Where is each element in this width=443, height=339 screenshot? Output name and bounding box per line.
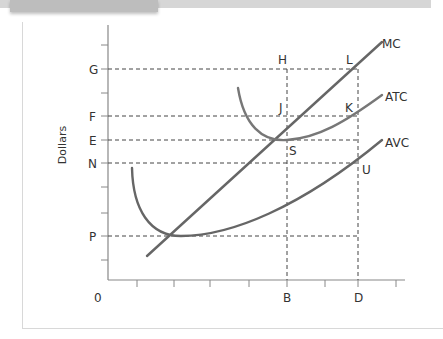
y-label-P: P	[89, 230, 96, 244]
y-label-G: G	[89, 63, 98, 77]
y-label-N: N	[88, 157, 97, 171]
x-ticks	[137, 280, 396, 287]
origin-label: 0	[94, 291, 102, 305]
x-label-D: D	[354, 291, 363, 305]
point-label-L: L	[346, 53, 353, 67]
reference-lines	[108, 69, 358, 280]
curves	[132, 42, 382, 256]
y-axis-title: Dollars	[56, 126, 69, 165]
curve-label-MC: MC	[382, 37, 401, 51]
point-label-J: J	[278, 101, 283, 115]
point-label-H: H	[278, 53, 287, 67]
point-label-K: K	[345, 101, 354, 115]
atc-curve	[238, 88, 382, 140]
mc-curve	[147, 42, 382, 256]
y-label-E: E	[89, 134, 97, 148]
y-label-F: F	[89, 110, 96, 124]
axes	[108, 25, 405, 280]
x-label-B: B	[283, 291, 291, 305]
point-label-U: U	[362, 163, 371, 177]
point-label-S: S	[289, 144, 297, 158]
curve-label-AVC: AVC	[385, 136, 409, 150]
curve-label-ATC: ATC	[385, 90, 407, 104]
y-ticks	[101, 45, 108, 260]
